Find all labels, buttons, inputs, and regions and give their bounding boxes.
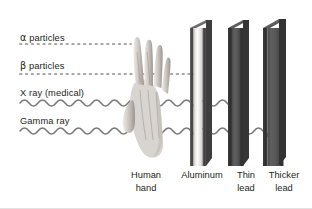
beta-symbol: β <box>20 60 26 71</box>
barrier-thicker-lead <box>263 19 286 166</box>
beta-label-text: particles <box>29 61 65 71</box>
alpha-symbol: α <box>20 32 26 43</box>
caption-human-hand: Human hand <box>118 169 174 194</box>
caption-thicker-lead: Thicker lead <box>260 169 308 194</box>
ray-label-xray: X ray (medical) <box>20 89 84 98</box>
ray-label-beta: β particles <box>20 61 64 71</box>
barrier-aluminum <box>190 20 212 166</box>
barrier-thin-lead <box>228 20 249 166</box>
caption-aluminum: Aluminum <box>174 169 230 182</box>
radiation-penetration-diagram: α particles β particles X ray (medical) … <box>0 0 312 209</box>
ray-label-alpha: α particles <box>20 33 65 43</box>
alpha-label-text: particles <box>29 33 65 43</box>
ray-label-gamma: Gamma ray <box>20 117 69 126</box>
